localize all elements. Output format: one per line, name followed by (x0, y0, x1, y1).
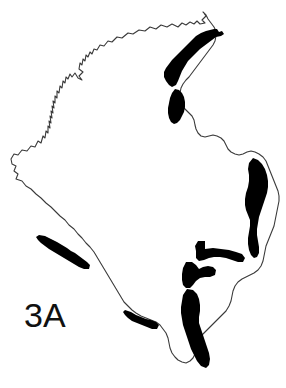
figure-label: 3A (24, 298, 66, 332)
figure-root: 3A (0, 0, 286, 388)
pacific-southwest-coast-band (36, 235, 90, 269)
